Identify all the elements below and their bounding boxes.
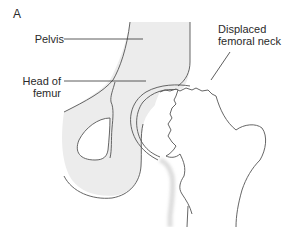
panel-label: A <box>13 7 21 21</box>
head-of-femur-label: Head of femur <box>8 75 61 99</box>
displaced-femoral-neck-label: Displaced femoral neck <box>218 23 293 47</box>
head-of-femur-label-line2: femur <box>8 87 61 99</box>
hip-fracture-diagram: A Pelvis Head of femur Displaced femoral… <box>0 0 293 227</box>
pelvis-label: Pelvis <box>30 33 64 45</box>
displaced-neck-label-line2: femoral neck <box>218 35 293 47</box>
displaced-neck-label-line1: Displaced <box>218 23 293 35</box>
head-of-femur-label-line1: Head of <box>8 75 61 87</box>
displaced-neck-leader-line <box>211 52 230 80</box>
pelvis-label-text: Pelvis <box>35 33 64 45</box>
